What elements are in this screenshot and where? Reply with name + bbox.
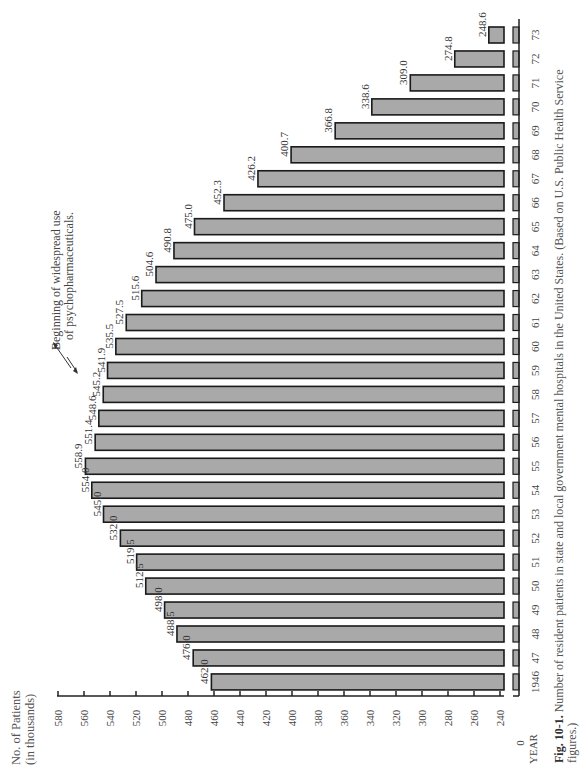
year-label-49: 49	[529, 604, 541, 616]
tick-label-320: 320	[390, 709, 402, 726]
bar-stub-53	[513, 506, 519, 522]
bar-62	[142, 291, 504, 307]
tick-label-480: 480	[182, 709, 194, 726]
year-axis-title: YEAR	[527, 733, 539, 764]
bar-73	[489, 27, 504, 43]
year-label-55: 55	[529, 460, 541, 472]
bar-stub-63	[513, 267, 519, 283]
bar-66	[224, 195, 504, 211]
year-label-52: 52	[529, 533, 541, 544]
bar-stub-47	[513, 650, 519, 666]
year-label-72: 72	[529, 53, 541, 64]
bar-68	[291, 147, 504, 163]
year-label-1946: 1946	[529, 670, 541, 693]
tick-label-440: 440	[234, 709, 246, 726]
tick-label-360: 360	[338, 709, 350, 726]
value-label-73: 248.6	[476, 12, 488, 37]
tick-label-400: 400	[286, 709, 298, 726]
bar-stub-69	[513, 123, 519, 139]
value-label-62: 515.6	[129, 275, 141, 300]
bars-group	[85, 27, 504, 690]
figure-caption-text: Number of resident patients in state and…	[552, 69, 566, 715]
bar-58	[103, 386, 504, 402]
value-label-72: 274.8	[442, 36, 454, 61]
bar-51	[137, 554, 504, 570]
value-label-48: 488.5	[164, 611, 176, 636]
tick-label-340: 340	[364, 709, 376, 726]
year-label-53: 53	[529, 508, 541, 520]
value-label-66: 452.3	[211, 179, 223, 204]
tick-label-280: 280	[442, 709, 454, 726]
value-label-63: 504.6	[143, 251, 155, 276]
year-labels: 1946474849505152535455565758596061626364…	[529, 29, 541, 693]
figure-caption-line2: figures.)	[565, 723, 579, 763]
bar-47	[193, 650, 504, 666]
year-label-70: 70	[529, 101, 541, 113]
bar-69	[335, 123, 504, 139]
bar-stub-58	[513, 386, 519, 402]
year-label-73: 73	[529, 29, 541, 41]
bar-stub-56	[513, 434, 519, 450]
bar-65	[195, 219, 505, 235]
bar-stub-60	[513, 338, 519, 354]
tick-label-460: 460	[208, 709, 220, 726]
bar-63	[156, 267, 504, 283]
year-label-67: 67	[529, 173, 541, 185]
tick-label-540: 540	[104, 709, 116, 726]
value-axis-title-line2: (in thousands)	[23, 694, 37, 765]
tick-label-300: 300	[416, 709, 428, 726]
tick-label-520: 520	[130, 709, 142, 726]
bar-stub-70	[513, 99, 519, 115]
bar-stub-68	[513, 147, 519, 163]
bar-64	[174, 243, 504, 259]
year-label-66: 66	[529, 197, 541, 209]
bar-70	[372, 99, 504, 115]
annotation-arrowhead-2	[73, 367, 78, 374]
value-axis: 5805605405205004804604404204003803603403…	[52, 691, 506, 726]
value-label-54: 554.0	[79, 467, 91, 492]
bar-72	[455, 51, 504, 67]
bar-55	[85, 458, 504, 474]
axis-break-stubs	[513, 27, 519, 690]
bar-stub-51	[513, 554, 519, 570]
year-label-61: 61	[529, 317, 541, 328]
value-label-70: 338.6	[359, 84, 371, 109]
year-label-62: 62	[529, 293, 541, 304]
value-label-51: 519.5	[124, 539, 136, 564]
value-label-61: 527.5	[113, 299, 125, 324]
year-label-47: 47	[529, 652, 541, 664]
tick-label-500: 500	[156, 709, 168, 726]
bar-71	[410, 75, 504, 91]
value-label-1946: 462.0	[198, 659, 210, 684]
bar-stub-64	[513, 243, 519, 259]
value-label-58: 545.2	[90, 372, 102, 397]
bar-52	[120, 530, 504, 546]
year-label-48: 48	[529, 628, 541, 640]
bar-stub-1946	[513, 674, 519, 690]
bar-49	[165, 602, 504, 618]
bar-stub-50	[513, 578, 519, 594]
year-label-71: 71	[529, 77, 541, 88]
year-label-58: 58	[529, 388, 541, 400]
bar-59	[108, 362, 504, 378]
bar-stub-61	[513, 315, 519, 331]
bar-60	[116, 338, 504, 354]
annotation-line1: Beginning of widespread use	[49, 210, 63, 350]
tick-label-420: 420	[260, 709, 272, 726]
annotation-arrow-1	[55, 345, 71, 368]
value-label-57: 548.6	[86, 395, 98, 420]
bar-67	[258, 171, 504, 187]
bar-chart: 462.0476.0488.5498.0512.5519.5532.0545.0…	[0, 0, 582, 765]
bar-1946	[211, 674, 504, 690]
value-label-52: 532.0	[107, 515, 119, 540]
year-label-50: 50	[529, 580, 541, 592]
bar-stub-59	[513, 362, 519, 378]
bar-stub-66	[513, 195, 519, 211]
bar-57	[99, 410, 504, 426]
bar-stub-71	[513, 75, 519, 91]
year-label-60: 60	[529, 340, 541, 352]
year-label-59: 59	[529, 364, 541, 376]
bar-53	[104, 506, 505, 522]
value-label-60: 535.5	[103, 323, 115, 348]
tick-label-380: 380	[312, 709, 324, 726]
